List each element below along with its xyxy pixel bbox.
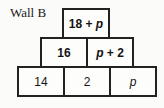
wall-cell-text: p [130, 76, 137, 88]
cell-variable: p [96, 17, 103, 31]
cell-prefix: 2 [84, 75, 91, 89]
wall-cell-bottom-right: p [109, 66, 157, 97]
wall-cell-text: p + 2 [96, 47, 124, 59]
wall-cell-text: 16 [57, 47, 70, 59]
wall-cell-bottom-left: 14 [17, 66, 65, 97]
wall-cell-middle-right: p + 2 [86, 37, 134, 68]
cell-prefix: 14 [34, 75, 47, 89]
wall-cell-text: 18 + p [69, 18, 103, 30]
wall-cell-middle-left: 16 [40, 37, 88, 68]
cell-prefix: 18 + [69, 17, 96, 31]
wall-cell-bottom-middle: 2 [63, 66, 111, 97]
cell-suffix: + 2 [103, 46, 123, 60]
number-wall-diagram: Wall B 18 + p 16 p + 2 14 2 p [0, 0, 164, 108]
wall-cell-text: 14 [34, 76, 47, 88]
wall-label: Wall B [10, 5, 46, 21]
cell-variable: p [130, 75, 137, 89]
wall-cell-top: 18 + p [62, 8, 110, 39]
cell-prefix: 16 [57, 46, 70, 60]
wall-cell-text: 2 [84, 76, 91, 88]
